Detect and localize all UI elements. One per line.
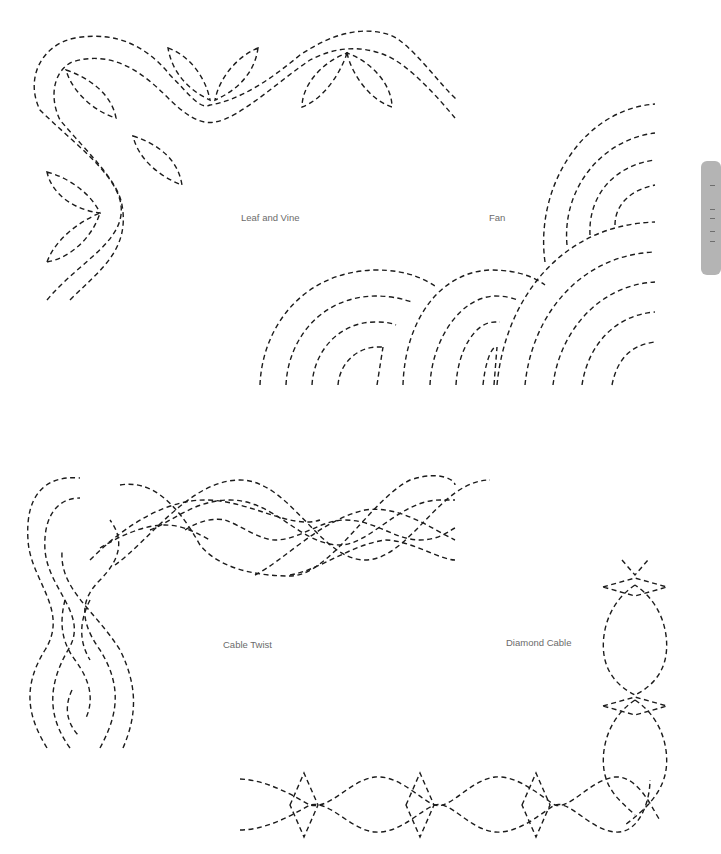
- tab-tick: [710, 218, 715, 219]
- tab-tick: [710, 185, 715, 186]
- thumb-index-tab: [701, 161, 721, 275]
- cable-twist-label: Cable Twist: [223, 639, 272, 650]
- tab-tick: [710, 231, 715, 232]
- tab-tick: [710, 209, 715, 210]
- leaf-and-vine-label: Leaf and Vine: [241, 212, 299, 223]
- diamond-cable-label: Diamond Cable: [506, 637, 571, 648]
- tab-tick: [710, 241, 715, 242]
- fan-label: Fan: [489, 212, 505, 223]
